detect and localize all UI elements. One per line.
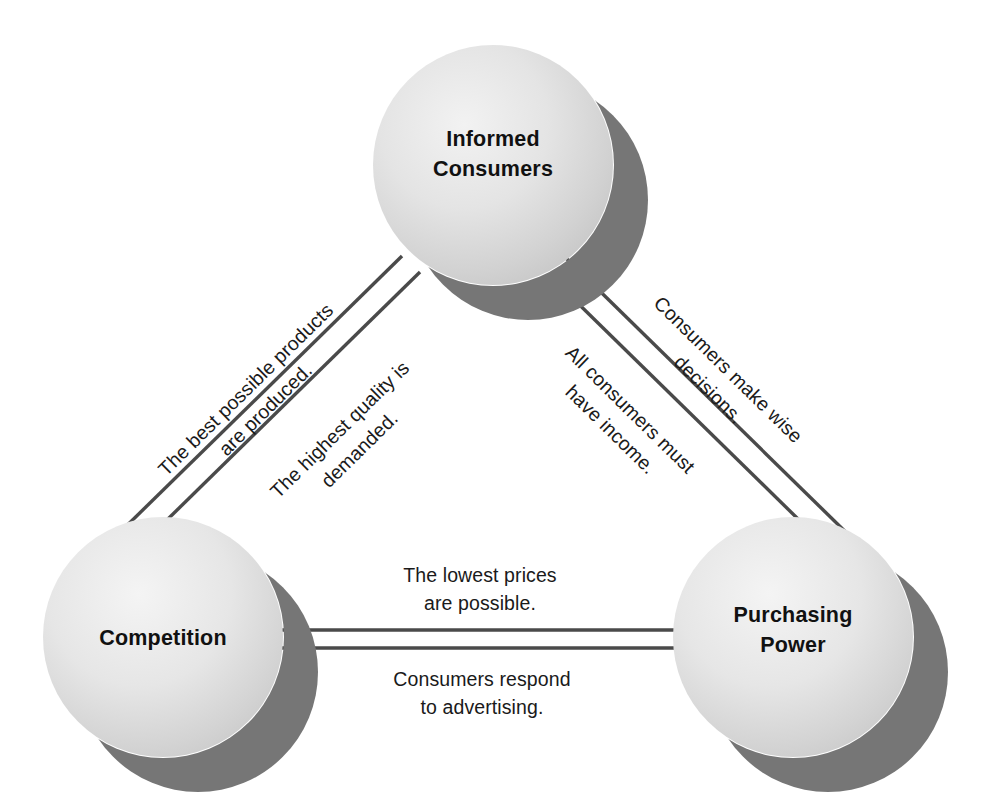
node-label-purchasing-power-line2: Power — [760, 633, 826, 657]
node-label-competition-line1: Competition — [99, 626, 227, 650]
edge-label-bottom-above-line1: The lowest prices — [403, 564, 557, 586]
node-label-purchasing-power-line1: Purchasing — [733, 603, 852, 627]
node-label-informed-consumers-line2: Consumers — [433, 157, 553, 181]
edge-label-bottom-above-line2: are possible. — [424, 592, 536, 614]
edge-label-bottom-below: Consumers respond to advertising. — [393, 668, 570, 718]
edge-label-bottom-above: The lowest prices are possible. — [403, 564, 557, 614]
node-label-informed-consumers-line1: Informed — [446, 127, 540, 151]
market-forces-triangle: Informed Consumers Competition Purchasin… — [0, 0, 982, 803]
edge-label-bottom-below-line2: to advertising. — [421, 696, 544, 718]
edge-label-bottom-below-line1: Consumers respond — [393, 668, 570, 690]
diagram-canvas: Informed Consumers Competition Purchasin… — [0, 0, 982, 803]
node-purchasing-power[interactable]: Purchasing Power — [673, 517, 948, 792]
node-competition[interactable]: Competition — [43, 517, 318, 792]
